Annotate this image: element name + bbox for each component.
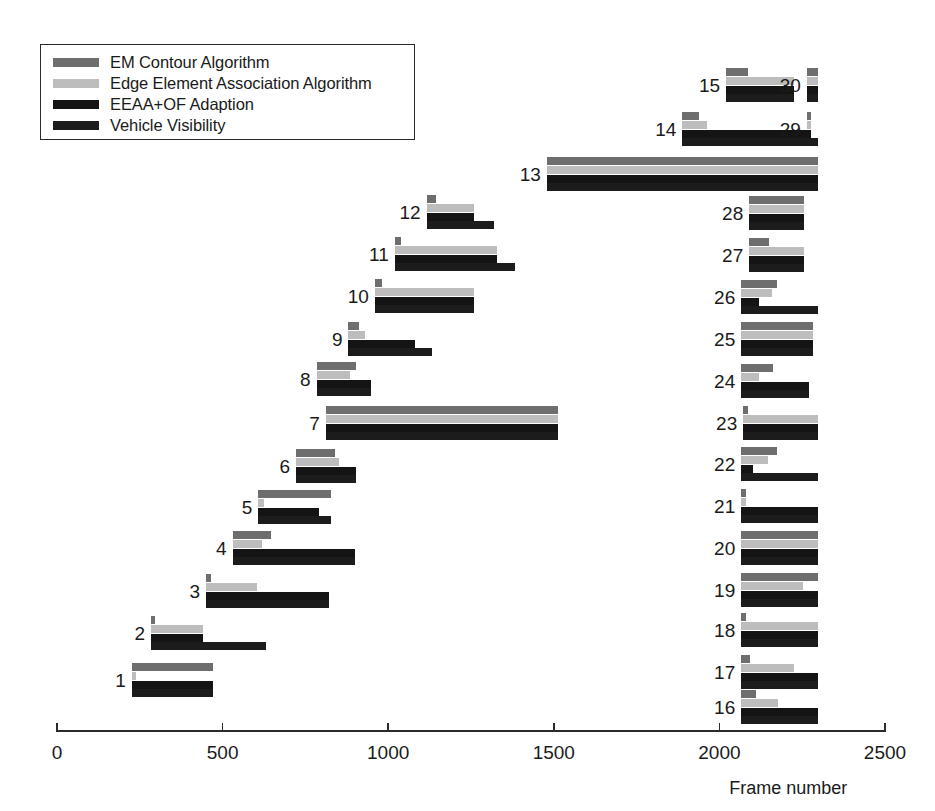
bar-segment [427,221,495,229]
bar-segment [326,415,558,423]
x-tick-label-2000: 2000 [698,742,740,764]
legend-item-2: EEAA+OF Adaption [41,94,414,115]
legend-item-3: Vehicle Visibility [41,115,414,136]
bar-segment [547,157,818,165]
bar-segment [258,499,264,507]
bar-segment [741,456,768,464]
bar-segment [741,708,818,716]
track-label: 11 [369,245,389,264]
track-label: 17 [714,663,735,682]
track-label: 20 [714,539,735,558]
track-label: 30 [780,76,801,95]
x-tick-500 [222,723,224,732]
bar-track: 22 [741,447,818,481]
bar-track: 16 [741,690,818,724]
bar-segment [741,348,813,356]
bar-segment [132,663,213,671]
bar-segment [741,364,773,372]
legend-label-1: Edge Element Association Algorithm [110,74,372,93]
bar-segment [807,130,811,138]
bar-track: 28 [749,196,804,230]
track-label: 29 [780,120,801,139]
bar-track: 30 [807,68,818,102]
bar-segment [741,515,818,523]
bar-segment [743,432,818,440]
bar-track: 26 [741,280,818,314]
x-tick-label-1000: 1000 [367,742,409,764]
legend-swatch-2 [53,100,99,109]
track-label: 24 [714,372,735,391]
bar-segment [258,508,318,516]
bar-track: 25 [741,322,813,356]
bar-segment [348,331,365,339]
bar-segment [258,516,330,524]
bar-segment [749,196,804,204]
bar-track: 5 [258,490,330,524]
bar-segment [741,599,818,607]
x-tick-label-1500: 1500 [533,742,575,764]
track-label: 26 [714,288,735,307]
legend-swatch-1 [53,79,99,88]
x-tick-2000 [719,723,721,732]
bar-segment [741,465,752,473]
bar-track: 23 [743,406,818,440]
x-tick-0 [56,723,58,732]
bar-track: 12 [427,195,495,229]
bar-segment [348,348,432,356]
bar-track: 21 [741,489,818,523]
bar-segment [132,681,213,689]
bar-segment [741,557,818,565]
bar-segment [749,264,804,272]
bar-segment [317,388,372,396]
bar-track: 4 [233,531,356,565]
bar-track: 24 [741,364,809,398]
bar-segment [206,574,211,582]
bar-segment [741,540,818,548]
bar-segment [233,531,271,539]
track-label: 18 [714,621,735,640]
bar-segment [749,256,804,264]
bar-segment [296,458,338,466]
bar-segment [233,549,356,557]
bar-segment [427,195,437,203]
bar-track: 13 [547,157,818,191]
track-label: 16 [714,698,735,717]
track-label: 27 [722,246,743,265]
bar-segment [547,166,818,174]
legend-label-3: Vehicle Visibility [110,116,225,135]
bar-segment [151,634,203,642]
bar-segment [317,362,357,370]
bar-segment [741,549,818,557]
bar-segment [807,138,818,146]
bar-segment [807,121,811,129]
bar-segment [743,415,818,423]
x-tick-1000 [387,723,389,732]
bar-segment [317,380,372,388]
track-label: 6 [280,457,291,476]
track-label: 1 [115,671,126,690]
track-label: 28 [722,204,743,223]
bar-segment [741,582,803,590]
legend-item-0: EM Contour Algorithm [41,52,414,73]
bar-segment [741,382,809,390]
track-label: 3 [189,582,200,601]
bar-track: 2 [151,616,266,650]
bar-segment [375,305,474,313]
bar-track: 3 [206,574,329,608]
bar-segment [741,447,777,455]
bar-segment [741,507,818,515]
bar-segment [741,639,818,647]
bar-track: 9 [348,322,432,356]
bar-segment [132,689,213,697]
bar-segment [749,222,804,230]
bar-segment [726,68,748,76]
track-label: 4 [216,539,227,558]
bar-segment [741,681,818,689]
bar-segment [326,432,558,440]
bar-segment [326,424,558,432]
bar-segment [233,557,356,565]
bar-segment [741,531,818,539]
x-axis-line [57,730,885,732]
bar-segment [427,213,475,221]
bar-segment [395,237,402,245]
